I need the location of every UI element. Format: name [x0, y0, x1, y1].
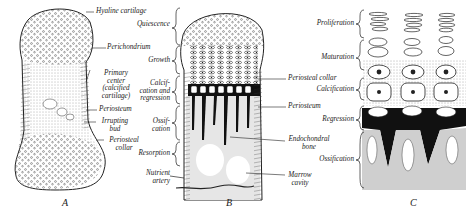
label-perichondrium: Perichondrium: [107, 44, 151, 52]
bone-development-figure: Hyaline cartilage Perichondrium Primary …: [0, 0, 470, 212]
label-nutrient-artery-line2: artery: [132, 178, 170, 186]
label-resorption: Resorption: [124, 150, 170, 158]
label-endochondral-line2: bone: [284, 144, 334, 152]
label-calc-line3: regression: [130, 95, 170, 103]
label-calcification-c: Calcification: [296, 86, 354, 94]
panel-b-drawing: [176, 14, 264, 200]
label-proliferation: Proliferation: [296, 20, 354, 28]
panel-letter-b: B: [226, 197, 232, 208]
label-irrupting-bud: Irrupting bud: [96, 118, 134, 133]
label-quiescence: Quiescence: [118, 21, 170, 29]
label-nutrient-artery: Nutrient artery: [132, 170, 170, 185]
panel-letter-a: A: [62, 197, 68, 208]
label-calcification-regression: Calcif- cation and regression: [130, 80, 170, 103]
label-growth: Growth: [118, 57, 170, 65]
label-ossif-line2: cation: [140, 126, 170, 134]
label-ossification-c: Ossification: [296, 156, 354, 164]
label-periosteum-b: Periosteum: [288, 103, 321, 111]
figure-artwork: [0, 0, 470, 212]
label-ossification-b: Ossif- cation: [140, 118, 170, 133]
label-regression: Regression: [296, 116, 354, 124]
label-marrow-cavity: Marrow cavity: [284, 172, 316, 187]
label-periosteal-collar-b: Periosteal collar: [288, 75, 337, 83]
label-maturation: Maturation: [296, 54, 354, 62]
label-hyaline-cartilage: Hyaline cartilage: [96, 8, 147, 16]
label-periosteum-a: Periosteum: [99, 106, 132, 114]
panel-c-drawing: [362, 8, 466, 190]
panel-letter-c: C: [410, 197, 417, 208]
label-irrupting-bud-line2: bud: [96, 126, 134, 134]
label-endochondral-bone: Endochondral bone: [284, 136, 334, 151]
label-marrow-line2: cavity: [284, 180, 316, 188]
panel-b-zone-braces: [170, 8, 184, 178]
